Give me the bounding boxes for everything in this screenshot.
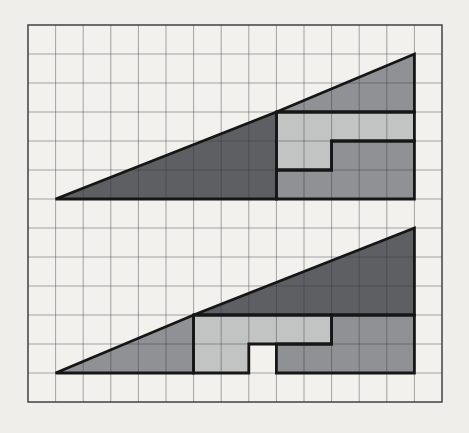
puzzle-diagram — [0, 0, 469, 433]
scanned-puzzle-page — [0, 0, 469, 433]
